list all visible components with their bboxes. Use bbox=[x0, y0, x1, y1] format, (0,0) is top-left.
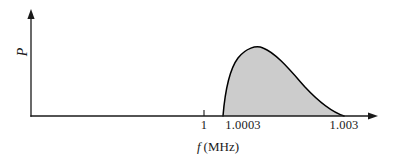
spectrum-figure: 1 1.0003 1.003 P f(MHz) bbox=[0, 0, 394, 161]
x-axis-label-symbol: f bbox=[197, 139, 204, 154]
x-axis-arrow-icon bbox=[368, 112, 378, 119]
x-tick-label-1-0003: 1.0003 bbox=[225, 118, 261, 133]
x-tick-label-1-003: 1.003 bbox=[329, 118, 358, 133]
plot-canvas bbox=[0, 0, 394, 161]
x-tick-label-1: 1 bbox=[201, 118, 207, 133]
x-axis-label: f(MHz) bbox=[0, 139, 394, 155]
y-axis-arrow-icon bbox=[27, 9, 34, 19]
y-axis-label: P bbox=[15, 41, 31, 63]
x-axis-label-unit: (MHz) bbox=[204, 139, 239, 154]
